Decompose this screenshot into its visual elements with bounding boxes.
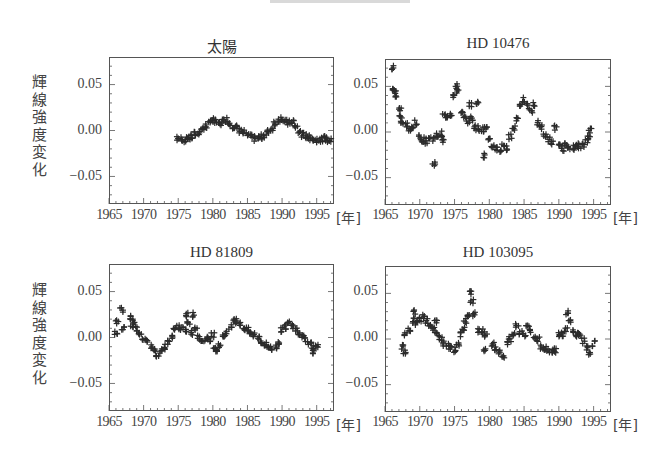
data-points [399,288,598,361]
x-tick-label: 1995 [574,414,614,430]
panel-hd103095: HD 103095 0.05 0.00 −0.05 19651970197519… [0,0,662,449]
y-tick-label: 0.05 [322,283,378,299]
y-tick-label: −0.05 [322,375,378,391]
x-axis-unit-label: [年] [613,414,638,434]
scatter-plot-area [385,266,611,412]
panel-title: HD 103095 [385,244,611,261]
y-tick-label: 0.00 [322,329,378,345]
